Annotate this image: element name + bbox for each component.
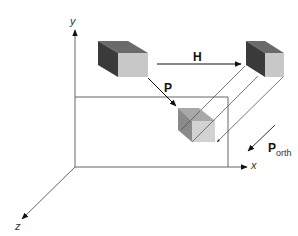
porth-label: Porth [268, 139, 292, 155]
translated-cube [246, 41, 284, 77]
z-axis-label: z [15, 221, 21, 232]
original-cube [98, 41, 148, 77]
p-label: P [164, 82, 172, 94]
y-axis-label: y [70, 16, 76, 27]
h-label: H [193, 51, 202, 63]
porth-main: P [268, 141, 276, 155]
x-axis-label: x [251, 160, 257, 171]
porth-subscript: orth [276, 148, 292, 158]
projection-diagram [0, 0, 298, 236]
z-axis [22, 167, 75, 219]
